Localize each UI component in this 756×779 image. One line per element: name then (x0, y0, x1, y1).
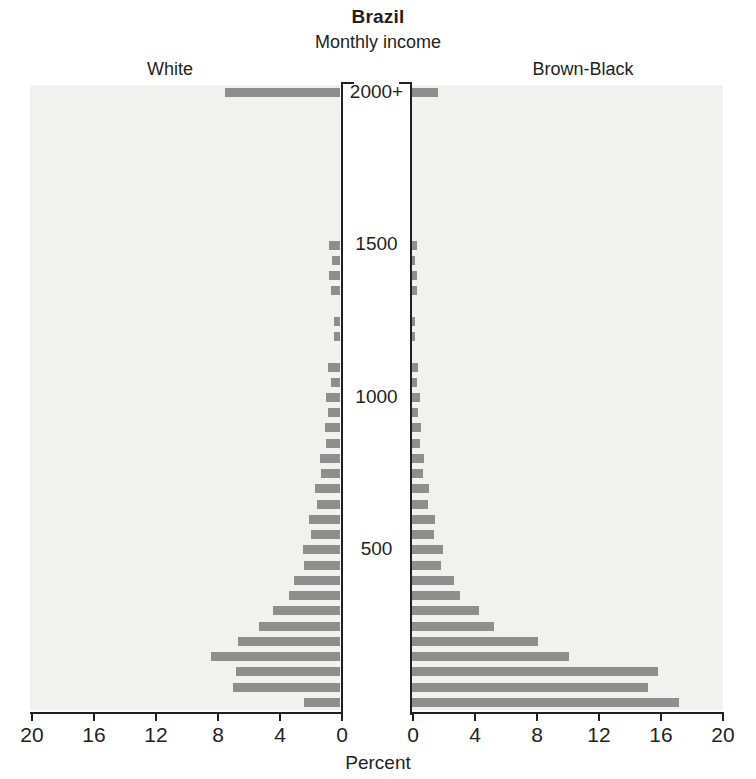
bar-brown-black-1250 (412, 317, 415, 326)
bar-white-1050 (331, 378, 340, 387)
plot-panel-white (30, 85, 340, 710)
y-tick-1000: 1000 (341, 386, 412, 408)
bar-brown-black-200 (412, 637, 538, 646)
x-tick-label-8: 8 (193, 723, 243, 747)
x-axis-title: Percent (0, 752, 756, 774)
bar-white-250 (259, 622, 340, 631)
x-axis-left (30, 712, 341, 714)
x-tick-mark (660, 712, 662, 721)
bar-brown-black-2000+ (412, 88, 438, 97)
x-tick-mark (279, 712, 281, 721)
bar-brown-black-300 (412, 606, 479, 615)
bar-brown-black-700 (412, 484, 429, 493)
bar-white-600 (309, 515, 340, 524)
x-tick-label-12: 12 (131, 723, 181, 747)
bar-brown-black-350 (412, 591, 460, 600)
bar-brown-black-500 (412, 545, 443, 554)
bar-white-750 (321, 469, 340, 478)
bar-white-950 (328, 408, 340, 417)
x-tick-label-20: 20 (698, 723, 748, 747)
bar-white-200 (238, 637, 340, 646)
bar-brown-black-1050 (412, 378, 417, 387)
bar-white-400 (294, 576, 341, 585)
bar-brown-black-550 (412, 530, 434, 539)
bar-brown-black-100 (412, 667, 658, 676)
x-tick-mark (722, 712, 724, 721)
bar-brown-black-0 (412, 698, 679, 707)
x-tick-mark (93, 712, 95, 721)
bar-white-500 (303, 545, 340, 554)
bar-brown-black-1500 (412, 241, 417, 250)
income-scale-column: 2000+15001000500 (341, 82, 412, 713)
bar-white-1400 (329, 271, 340, 280)
bar-white-2000+ (225, 88, 340, 97)
bar-white-700 (315, 484, 340, 493)
bar-white-1350 (331, 286, 340, 295)
bar-brown-black-650 (412, 500, 428, 509)
x-tick-label-0: 0 (388, 723, 438, 747)
bar-white-1100 (328, 363, 340, 372)
bar-brown-black-800 (412, 454, 424, 463)
x-tick-mark (474, 712, 476, 721)
x-tick-mark (217, 712, 219, 721)
bar-brown-black-900 (412, 423, 421, 432)
bar-white-850 (326, 439, 340, 448)
bar-brown-black-950 (412, 408, 418, 417)
bar-brown-black-850 (412, 439, 420, 448)
bar-brown-black-1350 (412, 286, 417, 295)
bar-brown-black-1200 (412, 332, 415, 341)
y-tick-1500: 1500 (341, 233, 412, 255)
chart-title: Brazil (0, 6, 756, 28)
x-axis-right (412, 712, 723, 714)
bar-brown-black-150 (412, 652, 569, 661)
x-tick-mark (536, 712, 538, 721)
bar-brown-black-450 (412, 561, 441, 570)
bar-white-800 (320, 454, 340, 463)
bar-brown-black-250 (412, 622, 494, 631)
bar-white-350 (289, 591, 340, 600)
bar-white-1450 (332, 256, 340, 265)
x-tick-label-4: 4 (450, 723, 500, 747)
bar-white-450 (304, 561, 340, 570)
bar-white-150 (211, 652, 340, 661)
y-tick-2000plus: 2000+ (341, 81, 412, 103)
bar-brown-black-1000 (412, 393, 420, 402)
bar-white-1200 (334, 332, 340, 341)
y-tick-500: 500 (341, 538, 412, 560)
bar-brown-black-400 (412, 576, 454, 585)
chart-figure: Brazil Monthly income White Brown-Black … (0, 0, 756, 779)
bar-brown-black-750 (412, 469, 423, 478)
x-tick-label-8: 8 (512, 723, 562, 747)
plot-panel-brown-black (412, 85, 723, 710)
bar-white-550 (311, 530, 340, 539)
bar-white-900 (325, 423, 341, 432)
x-tick-label-4: 4 (255, 723, 305, 747)
x-tick-mark (598, 712, 600, 721)
x-tick-mark (412, 712, 414, 721)
bar-white-100 (236, 667, 340, 676)
bar-brown-black-1100 (412, 363, 418, 372)
x-tick-label-16: 16 (636, 723, 686, 747)
group-label-left: White (0, 59, 340, 80)
bar-white-1500 (329, 241, 340, 250)
chart-subtitle: Monthly income (0, 32, 756, 53)
bar-white-300 (273, 606, 340, 615)
x-tick-label-20: 20 (7, 723, 57, 747)
x-tick-mark (155, 712, 157, 721)
x-tick-label-12: 12 (574, 723, 624, 747)
bar-brown-black-50 (412, 683, 648, 692)
bar-white-50 (233, 683, 340, 692)
bar-white-650 (317, 500, 340, 509)
x-tick-mark (31, 712, 33, 721)
x-tick-label-0: 0 (317, 723, 367, 747)
bar-white-1250 (334, 317, 340, 326)
bar-white-1000 (326, 393, 340, 402)
x-tick-label-16: 16 (69, 723, 119, 747)
bar-white-0 (304, 698, 340, 707)
x-tick-mark (341, 712, 343, 721)
bar-brown-black-1450 (412, 256, 415, 265)
group-label-right: Brown-Black (413, 59, 753, 80)
bar-brown-black-600 (412, 515, 435, 524)
bar-brown-black-1400 (412, 271, 417, 280)
